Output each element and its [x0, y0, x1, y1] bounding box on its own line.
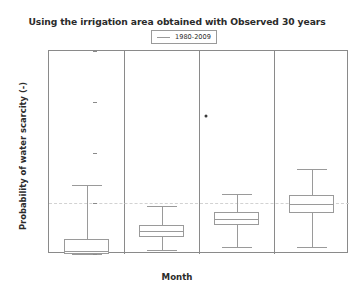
- ytick-mark: [93, 153, 97, 154]
- chart-legend: 1980-2009: [151, 30, 217, 44]
- dec-whisker-lower: [162, 237, 163, 250]
- feb-cap-upper: [297, 169, 327, 170]
- group-divider: [124, 51, 125, 254]
- jan-cap-lower: [222, 247, 252, 248]
- ytick-mark: [93, 203, 97, 204]
- ytick-mark: [93, 102, 97, 103]
- feb-whisker-upper: [312, 169, 313, 195]
- plot-area: 1.00 0.75 0.50 0.25 0.00 Nov Dec Jan Feb: [48, 50, 348, 253]
- jan-cap-upper: [222, 194, 252, 195]
- legend-line-icon: [157, 37, 170, 38]
- y-axis-label: Probability of water scarcity (-): [18, 51, 28, 261]
- dec-median: [139, 231, 184, 232]
- group-divider: [274, 51, 275, 254]
- nov-median: [64, 251, 109, 252]
- chart-figure: Using the irrigation area obtained with …: [0, 0, 354, 303]
- feb-cap-lower: [297, 247, 327, 248]
- x-axis-label: Month: [0, 272, 354, 282]
- group-divider: [199, 51, 200, 254]
- nov-cap-upper: [72, 185, 102, 186]
- ytick-mark: [93, 51, 97, 52]
- nov-cap-lower: [72, 254, 102, 255]
- legend-entry-label: 1980-2009: [175, 33, 211, 41]
- ytick-mark: [93, 254, 97, 255]
- jan-whisker-lower: [237, 225, 238, 248]
- feb-median: [289, 204, 334, 205]
- chart-title: Using the irrigation area obtained with …: [0, 16, 354, 27]
- feb-whisker-lower: [312, 213, 313, 247]
- dec-cap-upper: [147, 206, 177, 207]
- jan-outlier-point: [205, 114, 208, 117]
- dec-cap-lower: [147, 250, 177, 251]
- jan-median: [214, 219, 259, 220]
